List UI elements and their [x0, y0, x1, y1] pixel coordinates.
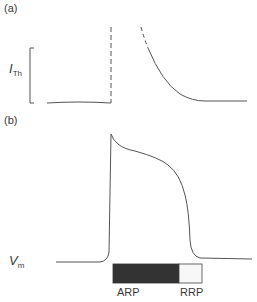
ith-baseline [47, 102, 111, 103]
rrp-label: RRP [180, 287, 203, 298]
diagram-canvas [0, 0, 257, 302]
rrp-bar [179, 264, 202, 283]
ith-decay-curve [148, 48, 247, 101]
ith-dashed-decay [141, 27, 148, 48]
ith-scale-bracket [30, 48, 34, 103]
arp-bar [113, 264, 179, 283]
arp-label: ARP [117, 287, 140, 298]
action-potential-trace [56, 134, 252, 262]
